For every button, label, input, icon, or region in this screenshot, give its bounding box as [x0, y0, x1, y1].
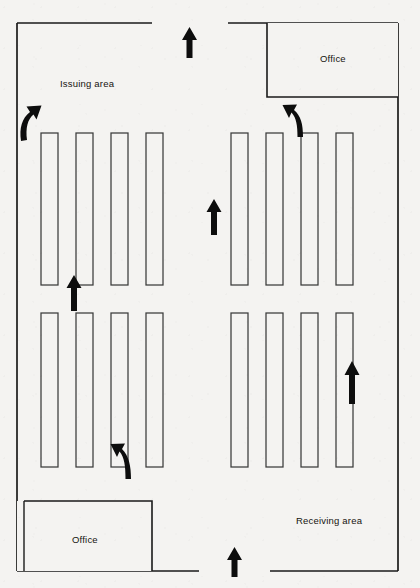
issuing-area-label: Issuing area — [60, 78, 115, 89]
rack-upper-6 — [266, 133, 283, 285]
rack-lower-6 — [266, 313, 283, 467]
warehouse-floorplan-diagram: Issuing area Receiving area Office Offic… — [0, 0, 420, 588]
rack-upper-3 — [111, 133, 128, 285]
receiving-area-label: Receiving area — [296, 515, 363, 526]
rack-lower-2 — [76, 313, 93, 467]
rack-upper-4 — [146, 133, 163, 285]
rack-upper-1 — [41, 133, 58, 285]
office-bottom-left-label: Office — [72, 534, 98, 545]
floorplan-svg: Issuing area Receiving area Office Offic… — [0, 0, 420, 588]
rack-upper-7 — [301, 133, 318, 285]
rack-lower-4 — [146, 313, 163, 467]
rack-upper-2 — [76, 133, 93, 285]
office-top-right-label: Office — [320, 53, 346, 64]
rack-lower-5 — [231, 313, 248, 467]
rack-lower-7 — [301, 313, 318, 467]
rack-lower-1 — [41, 313, 58, 467]
rack-upper-5 — [231, 133, 248, 285]
rack-upper-8 — [336, 133, 353, 285]
